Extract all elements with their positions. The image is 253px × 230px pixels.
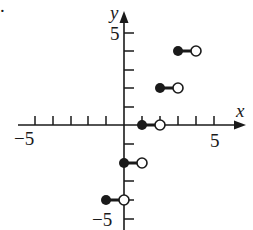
x-tick-label-5: 5 xyxy=(210,130,220,151)
closed-endpoint xyxy=(173,46,183,56)
segment xyxy=(155,83,183,93)
x-tick-label-neg5: −5 xyxy=(14,128,34,149)
open-endpoint xyxy=(137,158,147,168)
closed-endpoint xyxy=(155,83,165,93)
closed-endpoint xyxy=(137,120,147,130)
open-endpoint xyxy=(155,120,165,130)
open-endpoint xyxy=(173,83,183,93)
open-endpoint xyxy=(119,195,129,205)
y-axis-arrow-icon xyxy=(120,11,129,23)
y-ticks xyxy=(124,33,134,219)
step-function-graph: . y x 5 −5 −5 5 xyxy=(0,0,253,230)
figure-marker: . xyxy=(0,0,5,16)
y-axis-label: y xyxy=(108,2,119,23)
segment xyxy=(119,158,147,168)
closed-endpoint xyxy=(119,158,129,168)
x-axis-arrow-icon xyxy=(234,121,246,130)
closed-endpoint xyxy=(101,195,111,205)
y-tick-label-neg5: −5 xyxy=(92,209,112,230)
segment xyxy=(101,195,129,205)
x-axis-label: x xyxy=(235,100,245,121)
open-endpoint xyxy=(191,46,201,56)
segment xyxy=(137,120,165,130)
y-tick-label-5: 5 xyxy=(110,23,120,44)
segment xyxy=(173,46,201,56)
